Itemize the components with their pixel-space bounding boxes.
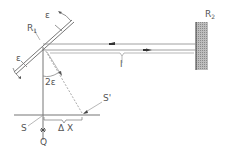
mirror-r2: [196, 22, 208, 70]
label-r2: R2: [205, 10, 215, 20]
label-distance-l: l: [120, 60, 123, 69]
label-screen-s: S: [21, 124, 27, 133]
label-epsilon-left: ε: [16, 54, 21, 63]
label-source-q: Q: [40, 138, 47, 147]
mirror-r1: [13, 11, 74, 79]
label-epsilon-top: ε: [45, 11, 50, 20]
diagram-canvas: [0, 0, 227, 151]
label-angle-2e: 2ε: [45, 78, 56, 87]
label-delta-x: Δ X: [58, 124, 73, 133]
label-r1: R1: [27, 24, 37, 34]
label-screen-s-prime: S': [103, 94, 111, 103]
